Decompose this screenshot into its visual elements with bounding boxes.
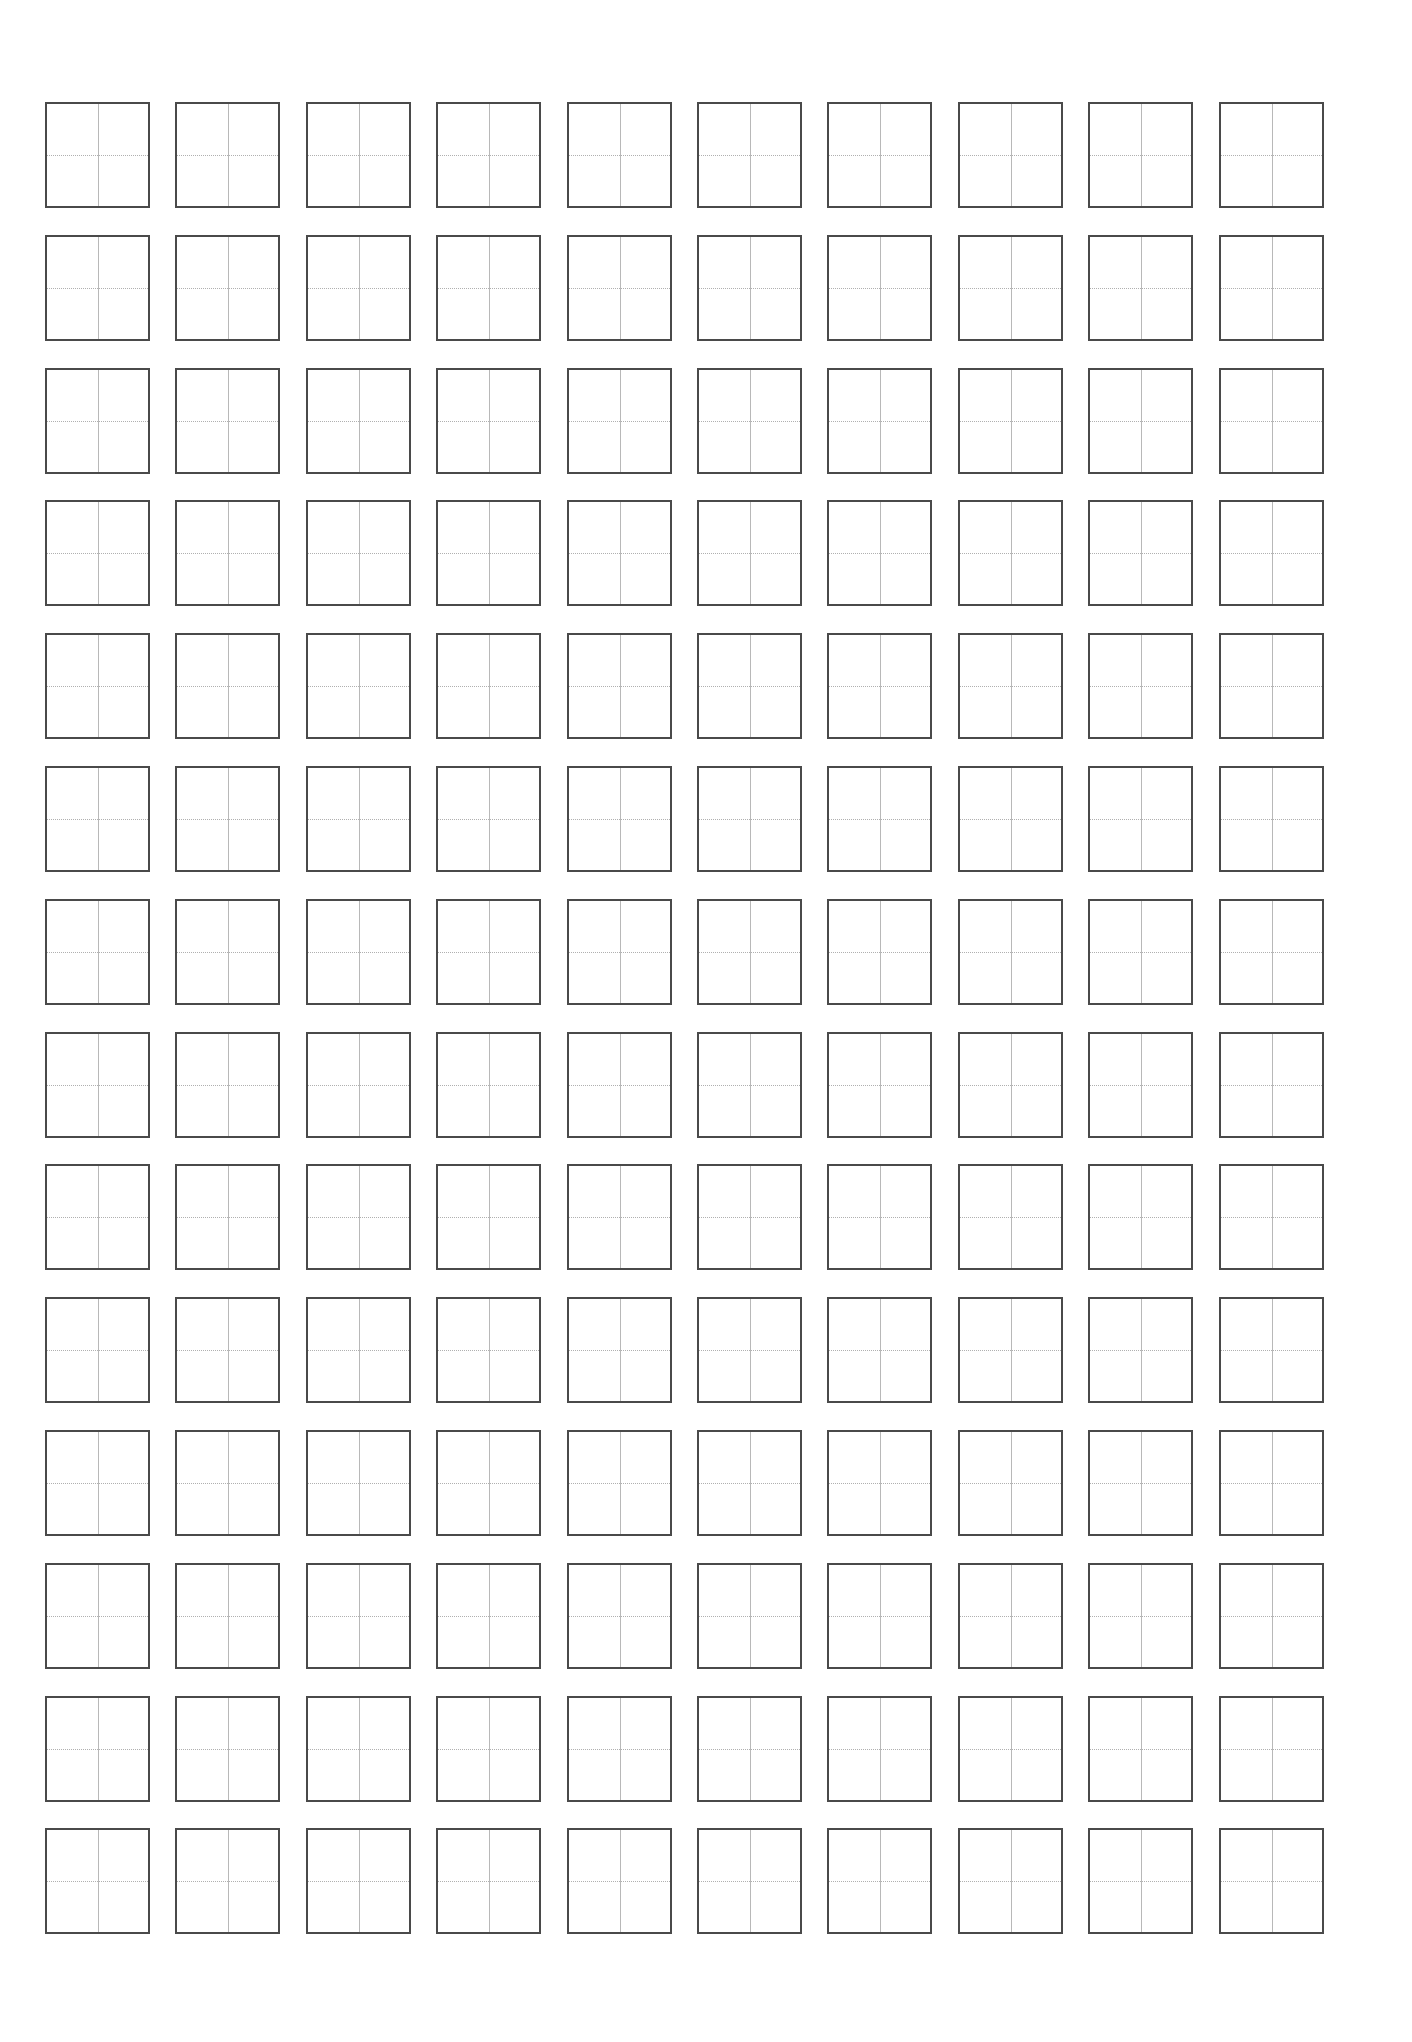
horizontal-guide-line xyxy=(960,952,1061,953)
writing-cell xyxy=(1088,102,1193,208)
horizontal-guide-line xyxy=(308,1616,409,1617)
horizontal-guide-line xyxy=(699,553,800,554)
horizontal-guide-line xyxy=(829,1881,930,1882)
writing-cell xyxy=(306,235,411,341)
writing-cell xyxy=(1088,1297,1193,1403)
horizontal-guide-line xyxy=(177,421,278,422)
writing-cell xyxy=(1088,1696,1193,1802)
writing-cell xyxy=(827,1828,932,1934)
horizontal-guide-line xyxy=(699,1217,800,1218)
writing-cell xyxy=(175,1696,280,1802)
writing-cell xyxy=(567,1696,672,1802)
writing-cell xyxy=(697,1297,802,1403)
horizontal-guide-line xyxy=(308,1085,409,1086)
horizontal-guide-line xyxy=(177,155,278,156)
writing-cell xyxy=(436,1032,541,1138)
horizontal-guide-line xyxy=(438,1483,539,1484)
writing-cell xyxy=(827,633,932,739)
horizontal-guide-line xyxy=(829,421,930,422)
writing-cell xyxy=(306,1696,411,1802)
writing-cell xyxy=(827,368,932,474)
horizontal-guide-line xyxy=(438,819,539,820)
writing-cell xyxy=(1088,766,1193,872)
horizontal-guide-line xyxy=(960,1217,1061,1218)
writing-cell xyxy=(958,1696,1063,1802)
writing-cell xyxy=(958,1297,1063,1403)
horizontal-guide-line xyxy=(47,1881,148,1882)
horizontal-guide-line xyxy=(569,819,670,820)
horizontal-guide-line xyxy=(47,819,148,820)
horizontal-guide-line xyxy=(47,155,148,156)
horizontal-guide-line xyxy=(308,1217,409,1218)
writing-cell xyxy=(827,1563,932,1669)
horizontal-guide-line xyxy=(1090,1881,1191,1882)
writing-cell xyxy=(1088,235,1193,341)
writing-cell xyxy=(306,500,411,606)
writing-cell xyxy=(697,1696,802,1802)
horizontal-guide-line xyxy=(1090,553,1191,554)
horizontal-guide-line xyxy=(1221,553,1322,554)
writing-cell xyxy=(827,1164,932,1270)
writing-cell xyxy=(1088,1032,1193,1138)
horizontal-guide-line xyxy=(569,1085,670,1086)
writing-cell xyxy=(827,102,932,208)
horizontal-guide-line xyxy=(1221,155,1322,156)
horizontal-guide-line xyxy=(308,1749,409,1750)
writing-cell xyxy=(175,1032,280,1138)
writing-cell xyxy=(45,899,150,1005)
horizontal-guide-line xyxy=(438,952,539,953)
horizontal-guide-line xyxy=(699,819,800,820)
horizontal-guide-line xyxy=(829,1085,930,1086)
horizontal-guide-line xyxy=(47,1483,148,1484)
writing-cell xyxy=(958,766,1063,872)
writing-cell xyxy=(1088,899,1193,1005)
writing-cell xyxy=(175,1297,280,1403)
horizontal-guide-line xyxy=(47,1616,148,1617)
writing-cell xyxy=(1219,1696,1324,1802)
horizontal-guide-line xyxy=(47,421,148,422)
horizontal-guide-line xyxy=(1090,1616,1191,1617)
writing-cell xyxy=(958,633,1063,739)
horizontal-guide-line xyxy=(177,952,278,953)
horizontal-guide-line xyxy=(699,1881,800,1882)
horizontal-guide-line xyxy=(177,1881,278,1882)
writing-cell xyxy=(1088,1164,1193,1270)
horizontal-guide-line xyxy=(569,155,670,156)
writing-cell xyxy=(697,633,802,739)
horizontal-guide-line xyxy=(1221,1616,1322,1617)
horizontal-guide-line xyxy=(829,288,930,289)
writing-cell xyxy=(697,1430,802,1536)
horizontal-guide-line xyxy=(308,155,409,156)
horizontal-guide-line xyxy=(569,1350,670,1351)
writing-cell xyxy=(45,766,150,872)
horizontal-guide-line xyxy=(438,1085,539,1086)
writing-cell xyxy=(1088,500,1193,606)
horizontal-guide-line xyxy=(960,819,1061,820)
horizontal-guide-line xyxy=(1090,1483,1191,1484)
writing-cell xyxy=(436,1828,541,1934)
horizontal-guide-line xyxy=(569,686,670,687)
writing-cell xyxy=(436,899,541,1005)
writing-cell xyxy=(436,1164,541,1270)
writing-cell xyxy=(958,500,1063,606)
writing-cell xyxy=(306,102,411,208)
writing-cell xyxy=(306,899,411,1005)
horizontal-guide-line xyxy=(699,1085,800,1086)
writing-cell xyxy=(697,1164,802,1270)
horizontal-guide-line xyxy=(438,1217,539,1218)
writing-cell xyxy=(1219,1297,1324,1403)
writing-cell xyxy=(306,1563,411,1669)
writing-cell xyxy=(306,633,411,739)
writing-cell xyxy=(436,102,541,208)
horizontal-guide-line xyxy=(960,288,1061,289)
horizontal-guide-line xyxy=(1090,686,1191,687)
horizontal-guide-line xyxy=(1221,1085,1322,1086)
horizontal-guide-line xyxy=(569,1217,670,1218)
writing-cell xyxy=(175,1563,280,1669)
writing-cell xyxy=(958,368,1063,474)
writing-cell xyxy=(697,899,802,1005)
horizontal-guide-line xyxy=(829,819,930,820)
writing-cell xyxy=(567,766,672,872)
horizontal-guide-line xyxy=(438,1350,539,1351)
horizontal-guide-line xyxy=(177,1217,278,1218)
